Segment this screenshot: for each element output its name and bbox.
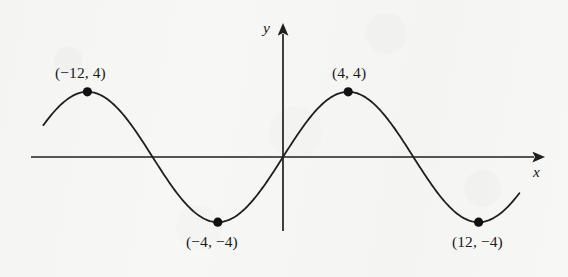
point-label-max-right: (4, 4)	[332, 64, 366, 82]
sine-curve-figure: (−12, 4) (4, 4) (−4, −4) (12, −4) y x	[0, 0, 568, 277]
data-point-max-left	[83, 87, 92, 96]
data-point-min-right	[474, 218, 483, 227]
y-axis-label: y	[263, 19, 270, 37]
data-point-min-left	[213, 218, 222, 227]
point-label-min-right: (12, −4)	[452, 233, 503, 251]
data-point-max-right	[344, 87, 353, 96]
point-label-max-left: (−12, 4)	[55, 64, 106, 82]
point-label-min-left: (−4, −4)	[186, 233, 238, 251]
x-axis-label: x	[533, 163, 540, 181]
